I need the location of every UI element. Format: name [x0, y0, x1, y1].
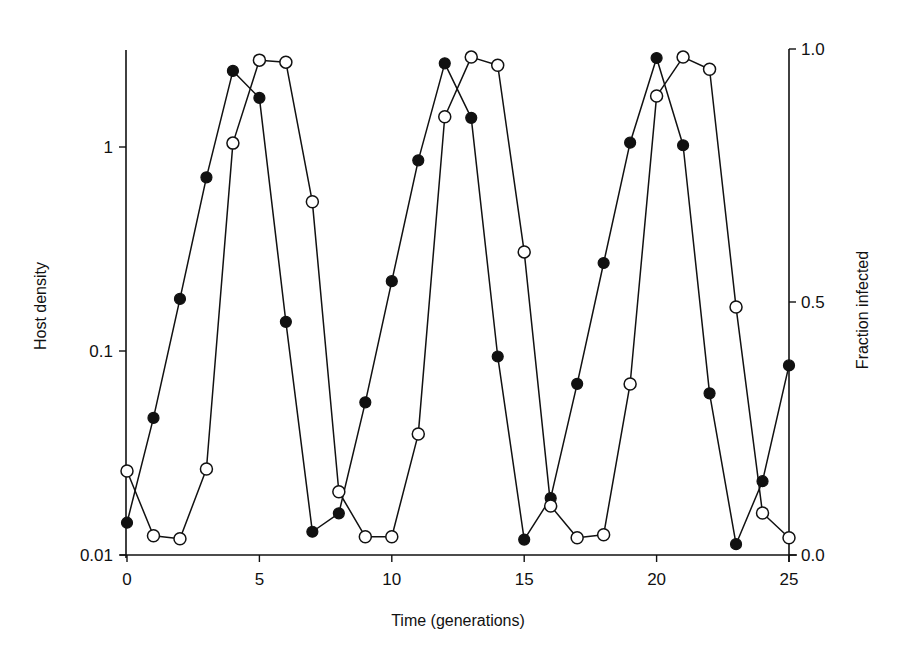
data-point-filled	[492, 351, 503, 362]
data-point-open	[783, 532, 795, 544]
data-point-open	[465, 51, 477, 63]
data-point-open	[359, 531, 371, 543]
right-y-tick-label: 1.0	[801, 40, 825, 59]
series-line	[127, 58, 789, 544]
x-tick-label: 5	[255, 570, 264, 589]
left-y-tick-label: 0.1	[89, 342, 113, 361]
data-point-filled	[386, 276, 397, 287]
x-axis-title: Time (generations)	[391, 612, 525, 629]
x-tick-label: 0	[122, 570, 131, 589]
data-point-open	[439, 111, 451, 123]
series-host-density	[122, 53, 795, 550]
data-point-open	[598, 529, 610, 541]
data-point-open	[757, 507, 769, 519]
x-tick-label: 25	[780, 570, 799, 589]
data-point-filled	[280, 316, 291, 327]
data-point-filled	[784, 360, 795, 371]
right-y-ticks: 0.00.51.0	[789, 40, 825, 565]
data-point-filled	[731, 539, 742, 550]
data-point-open	[306, 196, 318, 208]
data-point-filled	[519, 534, 530, 545]
data-point-filled	[254, 92, 265, 103]
x-tick-label: 10	[382, 570, 401, 589]
x-tick-label: 15	[515, 570, 534, 589]
data-point-filled	[598, 258, 609, 269]
data-point-filled	[439, 58, 450, 69]
data-point-open	[333, 486, 345, 498]
data-point-filled	[201, 172, 212, 183]
data-point-filled	[333, 508, 344, 519]
data-point-open	[121, 465, 133, 477]
data-point-open	[704, 63, 716, 75]
data-point-filled	[651, 53, 662, 64]
data-point-filled	[122, 517, 133, 528]
data-point-open	[147, 530, 159, 542]
left-y-ticks: 0.010.11	[80, 138, 126, 565]
data-point-filled	[572, 378, 583, 389]
data-point-filled	[625, 137, 636, 148]
data-point-open	[386, 531, 398, 543]
data-point-open	[492, 59, 504, 71]
series-layer	[121, 51, 795, 550]
data-point-filled	[227, 65, 238, 76]
data-point-filled	[678, 140, 689, 151]
right-y-tick-label: 0.0	[801, 546, 825, 565]
series-line	[127, 57, 789, 539]
data-point-open	[412, 428, 424, 440]
data-point-filled	[148, 412, 159, 423]
left-y-axis-title: Host density	[32, 262, 49, 350]
left-y-tick-label: 1	[104, 138, 113, 157]
data-point-filled	[466, 112, 477, 123]
left-y-tick-label: 0.01	[80, 546, 113, 565]
right-y-axis-title: Fraction infected	[854, 251, 871, 369]
data-point-open	[280, 56, 292, 68]
data-point-filled	[174, 293, 185, 304]
data-point-filled	[360, 397, 371, 408]
data-point-open	[730, 301, 742, 313]
data-point-open	[174, 533, 186, 545]
data-point-open	[571, 532, 583, 544]
data-point-filled	[307, 526, 318, 537]
data-point-filled	[413, 155, 424, 166]
x-ticks: 0510152025	[122, 555, 798, 589]
chart: 0510152025 0.010.11 0.00.51.0 Time (gene…	[0, 0, 900, 656]
series-fraction-infected	[121, 51, 795, 545]
data-point-open	[677, 51, 689, 63]
data-point-open	[545, 500, 557, 512]
data-point-open	[253, 54, 265, 66]
data-point-open	[651, 90, 663, 102]
x-tick-label: 20	[647, 570, 666, 589]
data-point-open	[200, 463, 212, 475]
data-point-open	[518, 246, 530, 258]
right-y-tick-label: 0.5	[801, 293, 825, 312]
data-point-open	[624, 378, 636, 390]
data-point-filled	[704, 388, 715, 399]
data-point-open	[227, 137, 239, 149]
